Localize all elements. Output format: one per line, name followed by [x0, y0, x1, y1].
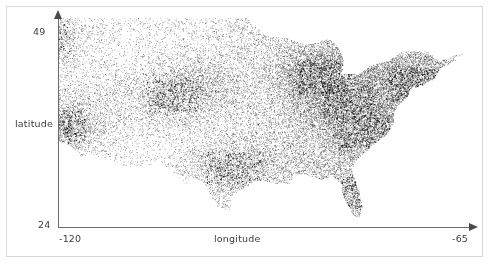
y-axis-label: latitude	[15, 118, 53, 129]
y-axis	[58, 18, 59, 227]
x-axis-arrow-icon	[469, 223, 478, 231]
x-axis-tick-max: -65	[452, 233, 468, 244]
y-axis-tick-min: 24	[38, 219, 51, 230]
x-axis-tick-min: -120	[59, 233, 81, 244]
y-axis-arrow-icon	[54, 10, 62, 19]
x-axis-label: longitude	[214, 233, 261, 244]
y-axis-tick-max: 49	[33, 26, 46, 37]
plot-area	[58, 18, 477, 227]
x-axis	[58, 227, 472, 228]
scatter-points-canvas	[58, 18, 477, 227]
scatter-plot-figure: 49 24 -120 -65 latitude longitude	[0, 0, 491, 267]
